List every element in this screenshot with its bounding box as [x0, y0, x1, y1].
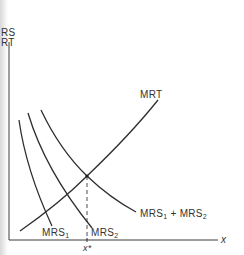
mrs-sum-label: MRS1 + MRS2	[140, 209, 207, 220]
mrs2-label-sub: 2	[114, 232, 118, 239]
y-axis-label-mrt: RT	[1, 38, 15, 48]
mrs2-label: MRS2	[91, 228, 118, 239]
mrs1-label-sub: 1	[65, 232, 69, 239]
x-axis-label: x	[221, 235, 226, 245]
equilibrium-point	[85, 174, 88, 177]
mrt-label: MRT	[140, 90, 162, 100]
mrs-sum-label-a: MRS	[140, 208, 163, 219]
mrs2-label-main: MRS	[91, 227, 114, 238]
mrs-sum-label-b-sub: 2	[203, 213, 207, 220]
mrs-sum-label-b: MRS	[180, 208, 203, 219]
mrt-curve	[20, 100, 158, 231]
mrs1-label-main: MRS	[42, 227, 65, 238]
diagram-canvas	[0, 0, 244, 255]
mrs-sum-curve	[41, 110, 136, 212]
x-star-label: x*	[83, 244, 92, 253]
mrs1-label: MRS1	[42, 228, 69, 239]
mrs-sum-plus: +	[167, 208, 179, 219]
